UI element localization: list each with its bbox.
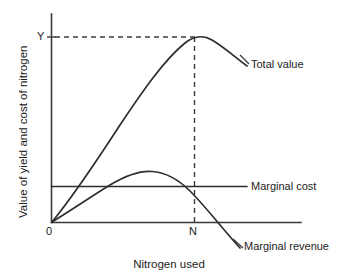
marginal-revenue-label: Marginal revenue [244, 241, 329, 252]
x-axis-title: Nitrogen used [0, 259, 338, 271]
total-value-curve [52, 37, 247, 222]
chart-plot-area [0, 0, 338, 280]
total-value-label: Total value [251, 59, 304, 70]
origin-tick-label: 0 [46, 226, 52, 237]
n-tick-label: N [189, 226, 197, 237]
marginal-cost-label: Marginal cost [251, 181, 316, 192]
y-tick-label: Y [37, 31, 44, 42]
y-axis-title: Value of yield and cost of nitrogen [18, 32, 30, 232]
nitrogen-response-chart: Value of yield and cost of nitrogen Nitr… [0, 0, 338, 280]
